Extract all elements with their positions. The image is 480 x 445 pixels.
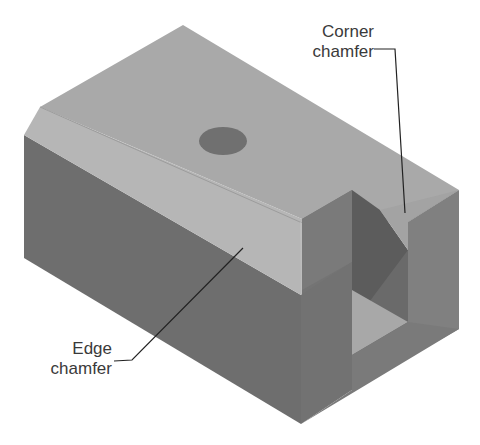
edge-chamfer-label-line2: chamfer	[38, 359, 112, 379]
corner-chamfer-label: Corner chamfer	[310, 22, 374, 62]
edge-chamfer-label: Edge chamfer	[38, 339, 112, 379]
chamfer-diagram: Corner chamfer Edge chamfer	[0, 0, 480, 445]
hole	[199, 127, 247, 155]
corner-chamfer-label-line1: Corner	[310, 22, 374, 42]
edge-chamfer-label-line1: Edge	[38, 339, 112, 359]
corner-chamfer-label-line2: chamfer	[310, 42, 374, 62]
